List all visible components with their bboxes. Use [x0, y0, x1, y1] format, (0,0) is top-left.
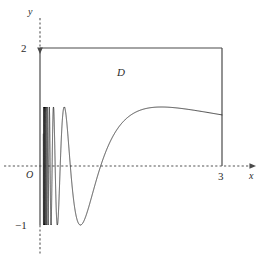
- figure-container: 2 −1 3 O y x D: [0, 0, 265, 271]
- x-axis-label: x: [249, 171, 253, 181]
- y-axis-label: y: [28, 7, 32, 17]
- origin-label: O: [26, 170, 33, 180]
- y-tick-label-2: 2: [21, 43, 27, 54]
- plot-canvas: [0, 0, 265, 271]
- y-tick-label-minus-1: −1: [15, 220, 27, 231]
- region-label-D: D: [117, 67, 125, 78]
- x-tick-label-3: 3: [218, 171, 224, 182]
